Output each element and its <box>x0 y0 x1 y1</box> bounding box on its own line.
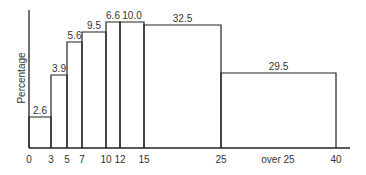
x-tick-label: 7 <box>79 154 85 165</box>
bar-value-label: 2.6 <box>33 105 47 116</box>
histogram-bar <box>106 22 120 148</box>
histogram-bar <box>29 117 51 148</box>
bar-value-label: 3.9 <box>52 63 66 74</box>
x-tick-label: over 25 <box>261 154 295 165</box>
x-tick-label: 25 <box>215 154 227 165</box>
x-tick-label: 40 <box>330 154 342 165</box>
histogram-bar <box>67 42 82 148</box>
histogram-bar <box>144 25 221 148</box>
y-axis-label: Percentage <box>16 52 27 104</box>
x-tick-label: 10 <box>100 154 112 165</box>
x-tick-label: 12 <box>114 154 126 165</box>
bar-value-label: 10.0 <box>122 10 142 21</box>
x-tick-label: 5 <box>64 154 70 165</box>
bar-value-label: 32.5 <box>173 13 193 24</box>
bar-value-label: 9.5 <box>87 20 101 31</box>
x-tick-label: 15 <box>138 154 150 165</box>
x-tick-label: 3 <box>48 154 54 165</box>
bar-value-label: 29.5 <box>269 61 289 72</box>
histogram-bar <box>51 75 67 148</box>
x-tick-label: 0 <box>26 154 32 165</box>
histogram-bar <box>120 22 144 148</box>
histogram-bar <box>221 73 336 148</box>
x-tick-labels: 035710121525over 2540 <box>26 154 342 165</box>
histogram-chart: 2.63.95.69.56.610.032.529.5 035710121525… <box>0 0 366 175</box>
value-labels: 2.63.95.69.56.610.032.529.5 <box>33 10 289 116</box>
histogram-bar <box>82 32 106 148</box>
bar-value-label: 5.6 <box>68 30 82 41</box>
bar-value-label: 6.6 <box>106 10 120 21</box>
